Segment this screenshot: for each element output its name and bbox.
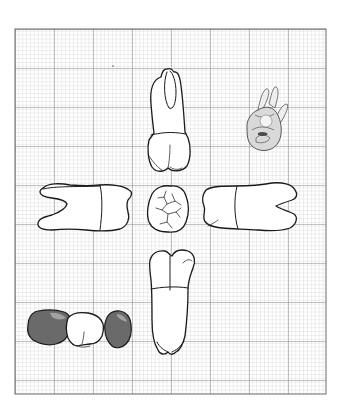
dental-diagram xyxy=(0,0,339,418)
crown-row xyxy=(28,310,132,348)
stray-mark xyxy=(112,65,114,67)
tooth-occlusal-view xyxy=(148,186,189,232)
